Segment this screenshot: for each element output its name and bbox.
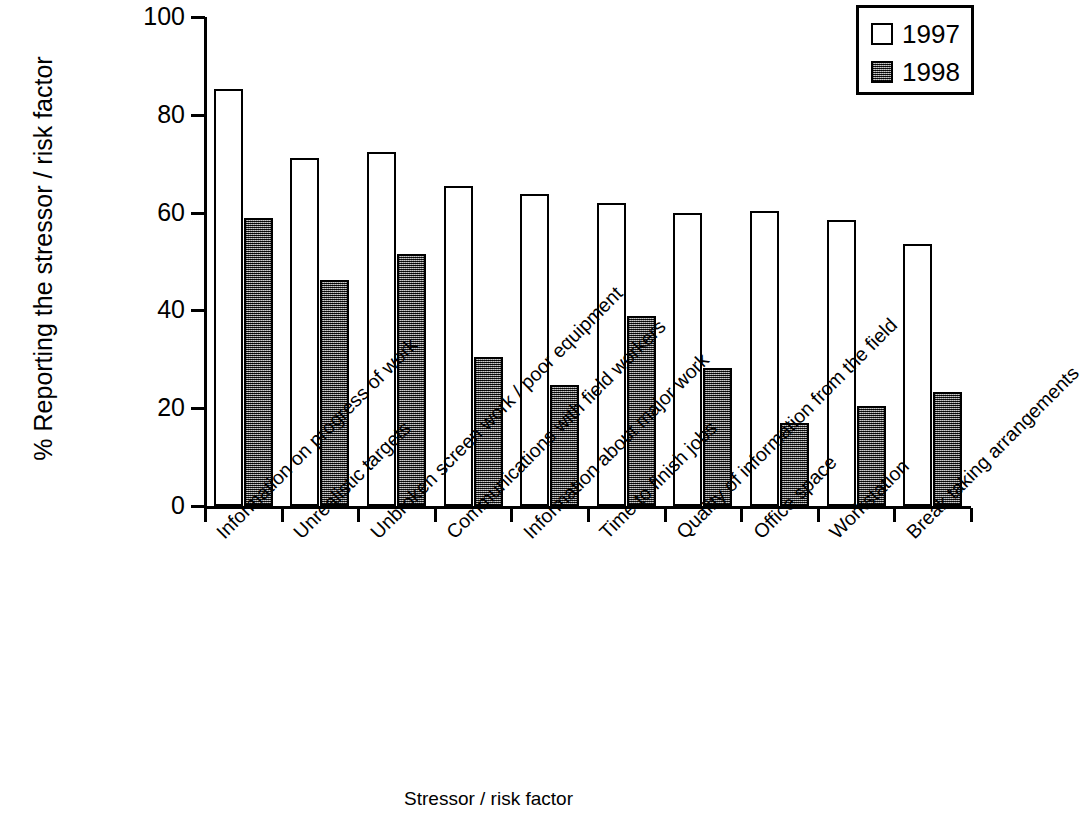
y-axis-line xyxy=(204,17,207,509)
bar-1998-6 xyxy=(703,368,732,506)
bar-1998-5 xyxy=(627,316,656,506)
x-axis-title: Stressor / risk factor xyxy=(0,788,977,810)
y-axis-tick xyxy=(191,309,205,312)
x-axis-tick xyxy=(281,508,284,522)
bar-1998-9 xyxy=(933,392,962,506)
y-axis-tick-label: 60 xyxy=(119,200,185,225)
bar-1997-9 xyxy=(903,244,932,506)
bar-1998-8 xyxy=(857,406,886,506)
y-axis-tick-label: 40 xyxy=(119,297,185,322)
y-axis-tick xyxy=(191,16,205,19)
legend-label: 1997 xyxy=(902,21,960,47)
y-axis-tick-label: 100 xyxy=(119,4,185,29)
x-axis-tick xyxy=(970,508,973,522)
x-axis-tick xyxy=(893,508,896,522)
bar-1997-5 xyxy=(597,203,626,506)
bar-1998-2 xyxy=(397,254,426,506)
x-axis-tick xyxy=(434,508,437,522)
bar-1997-8 xyxy=(827,220,856,506)
x-axis-tick xyxy=(204,508,207,522)
bar-1997-2 xyxy=(367,152,396,506)
legend-item: 1997 xyxy=(871,15,971,53)
x-axis-tick xyxy=(587,508,590,522)
bar-1998-7 xyxy=(780,423,809,506)
open-square-swatch-icon xyxy=(871,23,893,45)
bar-1997-0 xyxy=(214,89,243,506)
bar-1997-3 xyxy=(444,186,473,506)
y-axis-tick-label: 20 xyxy=(119,395,185,420)
bar-1997-4 xyxy=(520,194,549,506)
y-axis-tick-label: 0 xyxy=(119,493,185,518)
y-axis-tick xyxy=(191,505,205,508)
bar-1998-0 xyxy=(244,218,273,507)
bar-1998-3 xyxy=(474,357,503,506)
legend-label: 1998 xyxy=(902,59,960,85)
y-axis-tick xyxy=(191,212,205,215)
filled-square-swatch-icon xyxy=(871,61,893,83)
bar-1998-4 xyxy=(550,385,579,506)
x-axis-tick xyxy=(664,508,667,522)
bar-1997-7 xyxy=(750,211,779,506)
x-axis-tick xyxy=(817,508,820,522)
y-axis-tick xyxy=(191,114,205,117)
x-axis-tick xyxy=(357,508,360,522)
x-axis-tick xyxy=(510,508,513,522)
legend-item: 1998 xyxy=(871,53,971,91)
x-axis-tick xyxy=(740,508,743,522)
y-axis-tick-label: 80 xyxy=(119,102,185,127)
bar-1998-1 xyxy=(320,280,349,506)
y-axis-title: % Reporting the stressor / risk factor xyxy=(29,49,58,469)
y-axis-tick xyxy=(191,407,205,410)
legend: 1997 1998 xyxy=(856,5,974,95)
bar-1997-6 xyxy=(673,213,702,506)
bar-1997-1 xyxy=(290,158,319,506)
